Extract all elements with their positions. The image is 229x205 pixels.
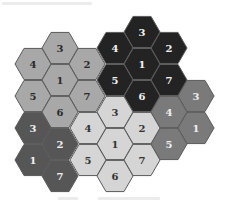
hex-label: 5: [166, 139, 173, 150]
hex-label: 1: [30, 155, 37, 166]
hex-label: 2: [139, 123, 146, 134]
hex-label: 4: [166, 107, 173, 118]
hex-label: 3: [139, 27, 146, 38]
hex-label: 1: [112, 139, 119, 150]
hex-label: 1: [193, 123, 200, 134]
hex-label: 7: [57, 171, 64, 182]
hex-label: 5: [30, 91, 37, 102]
hex-label: 2: [57, 139, 64, 150]
hex-label: 4: [30, 59, 37, 70]
hex-grid: 34215763421576341534215763217: [0, 0, 229, 205]
hex-label: 3: [112, 107, 119, 118]
hex-label: 2: [84, 59, 91, 70]
hex-label: 6: [57, 107, 64, 118]
hex-diagram: 34215763421576341534215763217: [0, 0, 229, 205]
hex-label: 4: [112, 43, 119, 54]
caption-text: [58, 197, 78, 200]
hex-label: 2: [166, 43, 173, 54]
hex-label: 5: [112, 75, 119, 86]
caption-text-continued: [98, 197, 160, 200]
hex-label: 4: [85, 123, 92, 134]
hex-label: 3: [30, 123, 37, 134]
hex-label: 3: [57, 43, 64, 54]
hex-label: 3: [193, 91, 200, 102]
hex-label: 1: [57, 75, 64, 86]
hex-label: 7: [84, 91, 91, 102]
hex-label: 5: [85, 155, 92, 166]
hex-label: 6: [112, 171, 119, 182]
hex-label: 7: [166, 75, 173, 86]
hex-label: 6: [139, 91, 146, 102]
hex-label: 1: [139, 59, 146, 70]
cropped-header-text: [2, 2, 92, 5]
hex-label: 7: [139, 155, 146, 166]
